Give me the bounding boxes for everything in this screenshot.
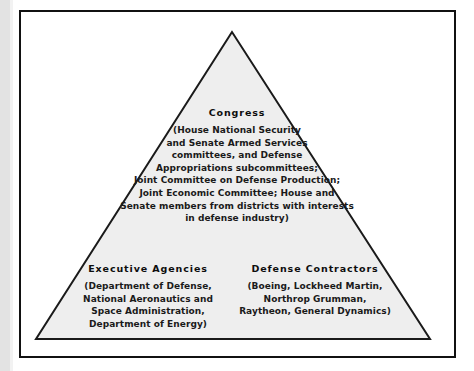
congress-block: Congress (House National Security and Se… [104, 106, 370, 225]
figure-page: Congress (House National Security and Se… [0, 0, 474, 371]
congress-line: Senate members from districts with inter… [104, 200, 370, 213]
congress-heading: Congress [104, 106, 370, 119]
congress-line: committees, and Defense [104, 149, 370, 162]
congress-line: (House National Security [104, 124, 370, 137]
defense-contractors-line: Raytheon, General Dynamics) [215, 305, 415, 318]
defense-contractors-line: (Boeing, Lockheed Martin, [215, 280, 415, 293]
defense-contractors-line: Northrop Grumman, [215, 293, 415, 306]
congress-line: Joint Economic Committee; House and [104, 187, 370, 200]
congress-line: Joint Committee on Defense Production; [104, 174, 370, 187]
congress-line: Appropriations subcommittees; [104, 162, 370, 175]
congress-line: in defense industry) [104, 212, 370, 225]
executive-agencies-line: Department of Energy) [48, 318, 248, 331]
defense-contractors-block: Defense Contractors (Boeing, Lockheed Ma… [215, 262, 415, 318]
scan-edge-artifact-soft [10, 0, 13, 371]
scan-edge-artifact [0, 0, 10, 371]
congress-line: and Senate Armed Services [104, 137, 370, 150]
defense-contractors-heading: Defense Contractors [215, 262, 415, 275]
